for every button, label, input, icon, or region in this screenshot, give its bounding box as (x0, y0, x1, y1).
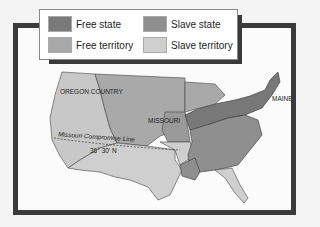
swatch-icon (143, 37, 167, 53)
swatch-icon (48, 16, 72, 32)
label-latitude: 36° 30′ N (90, 147, 117, 154)
label-maine: MAINE (272, 95, 293, 102)
label-missouri: MISSOURI (148, 117, 180, 124)
swatch-icon (143, 16, 167, 32)
swatch-icon (48, 37, 72, 53)
legend-free-state: Free state (48, 16, 121, 32)
legend: Free state Slave state Free territory Sl… (39, 9, 238, 60)
legend-slave-territory: Slave territory (143, 37, 233, 53)
legend-free-territory: Free territory (48, 37, 133, 53)
label-oregon: OREGON COUNTRY (60, 88, 123, 95)
legend-slave-state: Slave state (143, 16, 220, 32)
